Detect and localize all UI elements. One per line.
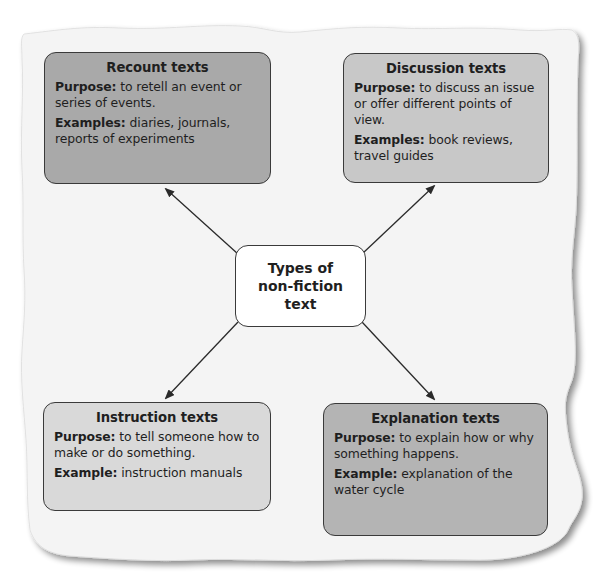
examples-label: Examples:	[55, 115, 126, 130]
center-line-3: text	[258, 295, 343, 313]
purpose-label: Purpose:	[354, 80, 415, 95]
examples-label: Example:	[54, 465, 117, 480]
box-title: Explanation texts	[334, 411, 537, 427]
arrow-to-explanation	[362, 322, 434, 399]
instruction-texts-box: Instruction texts Purpose: to tell someo…	[43, 402, 271, 511]
box-title: Instruction texts	[54, 410, 260, 426]
examples-label: Examples:	[354, 132, 425, 147]
examples-line: Example: explanation of the water cycle	[334, 466, 537, 498]
explanation-texts-box: Explanation texts Purpose: to explain ho…	[323, 403, 548, 536]
center-line-2: non-fiction	[258, 277, 343, 295]
purpose-label: Purpose:	[334, 430, 395, 445]
examples-line: Example: instruction manuals	[54, 465, 260, 481]
examples-text: instruction manuals	[117, 465, 242, 480]
central-topic-box: Types of non-fiction text	[235, 245, 366, 327]
discussion-texts-box: Discussion texts Purpose: to discuss an …	[343, 53, 549, 183]
purpose-label: Purpose:	[55, 79, 116, 94]
arrow-to-discussion	[362, 186, 434, 254]
arrow-to-recount	[166, 189, 238, 254]
purpose-line: Purpose: to discuss an issue or offer di…	[354, 80, 538, 128]
purpose-line: Purpose: to retell an event or series of…	[55, 79, 260, 111]
examples-label: Example:	[334, 466, 397, 481]
purpose-line: Purpose: to explain how or why something…	[334, 430, 537, 462]
center-line-1: Types of	[258, 259, 343, 277]
purpose-label: Purpose:	[54, 429, 115, 444]
recount-texts-box: Recount texts Purpose: to retell an even…	[44, 52, 271, 184]
purpose-line: Purpose: to tell someone how to make or …	[54, 429, 260, 461]
box-title: Discussion texts	[354, 61, 538, 77]
arrow-to-instruction	[166, 322, 238, 398]
examples-line: Examples: book reviews, travel guides	[354, 132, 538, 164]
examples-line: Examples: diaries, journals, reports of …	[55, 115, 260, 147]
box-title: Recount texts	[55, 60, 260, 76]
